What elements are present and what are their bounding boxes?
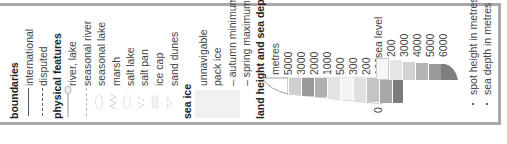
metres-unit-label: metres (269, 43, 281, 75)
sea-depth-label: sea depth in metres (481, 3, 493, 95)
salt-pan-label: salt pan (138, 49, 150, 86)
spot-height-dot-icon (472, 103, 474, 105)
frame-bottom-border (0, 122, 501, 125)
sea-band-5000 (428, 64, 441, 80)
land-band-5000 (288, 78, 301, 95)
sea-depth-dot-icon (486, 103, 488, 105)
boundaries-heading: boundaries (8, 62, 20, 119)
land-band-500 (340, 78, 353, 100)
land-level-3000: 3000 (295, 52, 307, 75)
sea-level-5000: 5000 (424, 34, 436, 57)
land-band-2000 (314, 78, 327, 97)
pack-ice-label: pack ice (211, 47, 223, 86)
sand-dunes-icon (164, 95, 174, 109)
land-level-500: 500 (334, 57, 346, 75)
land-level-200: 200 (360, 57, 372, 75)
land-level-1000: 1000 (321, 52, 333, 75)
disputed-label: disputed (37, 46, 49, 86)
seasonal-lake-label: seasonal lake (95, 22, 107, 86)
salt-pan-icon (136, 95, 146, 109)
spot-height-label: spot height in metres (467, 0, 479, 95)
land-level-2000: 2000 (308, 52, 320, 75)
land-level-5000: 5000 (282, 52, 294, 75)
sea-level-4000: 4000 (411, 34, 423, 57)
sea-band-200 (389, 60, 402, 80)
international-boundary-icon (28, 88, 29, 116)
sea-level-3000: 3000 (398, 34, 410, 57)
land-band-1000 (327, 78, 340, 99)
sea-level-label: sea level (372, 17, 384, 58)
land-band-200 (366, 78, 379, 102)
unnavigable-label: unnavigable (197, 29, 209, 86)
zero-level-label: 0 (372, 107, 384, 113)
sea-level-6000: 6000 (437, 34, 449, 57)
river-lake-label: river, lake (66, 41, 78, 86)
seasonal-lake-icon (94, 94, 104, 110)
land-level-300: 300 (347, 57, 359, 75)
sea-band-3000 (402, 62, 415, 80)
spring-maximum-label: – spring maximum (240, 0, 252, 86)
sea-band-6000 (441, 64, 459, 80)
sea-level-200: 200 (385, 39, 397, 57)
salt-lake-label: salt lake (124, 47, 136, 86)
seasonal-river-icon (86, 88, 87, 116)
land-band-0 (392, 78, 403, 103)
seasonal-river-label: seasonal river (81, 21, 93, 86)
land-band-100 (379, 78, 392, 103)
sea-ice-heading: sea ice (181, 84, 193, 119)
sea-ice-swatch (195, 90, 240, 118)
sea-band-4000 (415, 63, 428, 80)
ice-cap-label: ice cap (153, 53, 165, 86)
land-band-300 (353, 78, 366, 101)
river-lake-icon (62, 85, 74, 117)
marsh-icon (108, 93, 118, 111)
sand-dunes-label: sand dunes (168, 32, 180, 86)
ice-cap-icon (150, 95, 160, 109)
land-band-3000 (301, 78, 314, 96)
autumn-minimum-label: – autumn minimum (226, 0, 238, 86)
marsh-label: marsh (110, 57, 122, 86)
international-label: international (23, 29, 35, 86)
disputed-boundary-icon (42, 88, 43, 116)
frame-right-border (498, 3, 501, 125)
salt-lake-icon (122, 95, 132, 109)
sea-band-0 (376, 58, 389, 80)
